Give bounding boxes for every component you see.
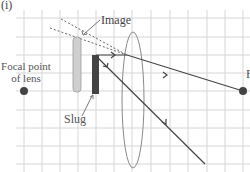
arrowheads bbox=[103, 52, 167, 124]
right-focal-point bbox=[239, 87, 247, 95]
grid bbox=[16, 10, 250, 172]
slug-label: Slug bbox=[64, 113, 86, 125]
slug-bar bbox=[92, 55, 99, 94]
left-focal-point bbox=[20, 87, 28, 95]
part-label: (i) bbox=[1, 0, 12, 11]
image-bar bbox=[73, 37, 81, 92]
image-label: Image bbox=[101, 14, 131, 26]
focal-point-label: Focal point of lens bbox=[0, 60, 52, 84]
lens-ray-diagram: (i) Focal point of lens Image Slug F bbox=[0, 0, 250, 172]
right-focal-label: F bbox=[246, 68, 250, 80]
